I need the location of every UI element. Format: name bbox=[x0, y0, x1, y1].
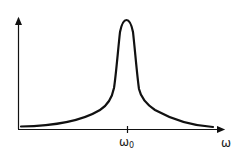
omega-axis-label: ω bbox=[221, 137, 231, 149]
resonance-diagram bbox=[0, 0, 240, 154]
resonance-curve bbox=[21, 20, 213, 127]
omega0-label: ω0 bbox=[119, 136, 134, 150]
